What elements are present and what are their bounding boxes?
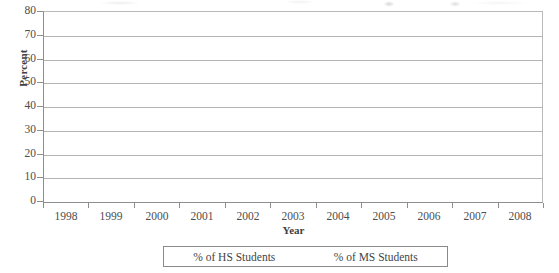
x-axis: 1998199920002001200220032004200520062007… bbox=[43, 203, 544, 243]
x-axis-tick-mark bbox=[316, 203, 317, 208]
x-axis-tick-label: 2008 bbox=[497, 210, 543, 222]
x-axis-tick-mark bbox=[498, 203, 499, 208]
legend-entry: % of HS Students bbox=[193, 251, 275, 263]
x-axis-tick-mark bbox=[452, 203, 453, 208]
x-axis-tick-label: 1999 bbox=[88, 210, 134, 222]
x-axis-tick-label: 2005 bbox=[361, 210, 407, 222]
chart-legend: % of HS Students% of MS Students bbox=[163, 246, 448, 267]
x-axis-tick-mark bbox=[134, 203, 135, 208]
y-axis-tick-label: 50 bbox=[10, 76, 36, 88]
y-axis-tick-label: 70 bbox=[10, 29, 36, 41]
gridline bbox=[44, 178, 542, 179]
y-axis-tick-labels: 80706050403020100 bbox=[0, 0, 43, 273]
y-axis-tick-label: 30 bbox=[10, 124, 36, 136]
x-axis-tick-mark bbox=[361, 203, 362, 208]
x-axis-tick-mark bbox=[543, 203, 544, 208]
y-axis-tick-label: 40 bbox=[10, 100, 36, 112]
x-axis-tick-label: 1998 bbox=[43, 210, 89, 222]
gridline bbox=[44, 107, 542, 108]
x-axis-tick-mark bbox=[179, 203, 180, 208]
x-axis-tick-mark bbox=[407, 203, 408, 208]
gridline bbox=[44, 155, 542, 156]
gridline bbox=[44, 131, 542, 132]
y-axis-tick-label: 80 bbox=[10, 5, 36, 17]
x-axis-tick-mark bbox=[43, 203, 44, 208]
x-axis-tick-mark bbox=[225, 203, 226, 208]
x-axis-tick-label: 2006 bbox=[406, 210, 452, 222]
legend-entry-label: % of MS Students bbox=[334, 251, 418, 263]
x-axis-tick-label: 2002 bbox=[225, 210, 271, 222]
plot-area bbox=[43, 11, 543, 203]
x-axis-tick-label: 2000 bbox=[134, 210, 180, 222]
x-axis-tick-label: 2003 bbox=[270, 210, 316, 222]
x-axis-title: Year bbox=[43, 224, 544, 236]
legend-entry-label: % of HS Students bbox=[193, 251, 275, 263]
x-axis-tick-label: 2004 bbox=[315, 210, 361, 222]
gridline bbox=[44, 36, 542, 37]
y-axis-tick-label: 0 bbox=[10, 195, 36, 207]
x-axis-tick-label: 2001 bbox=[179, 210, 225, 222]
y-axis-tick-label: 10 bbox=[10, 171, 36, 183]
x-axis-tick-label: 2007 bbox=[452, 210, 498, 222]
x-axis-tick-mark bbox=[270, 203, 271, 208]
gridline bbox=[44, 83, 542, 84]
legend-entry: % of MS Students bbox=[334, 251, 418, 263]
y-axis-tick-label: 60 bbox=[10, 53, 36, 65]
y-axis-tick-label: 20 bbox=[10, 148, 36, 160]
gridline bbox=[44, 60, 542, 61]
x-axis-tick-mark bbox=[88, 203, 89, 208]
scan-artifact-noise bbox=[0, 0, 559, 10]
